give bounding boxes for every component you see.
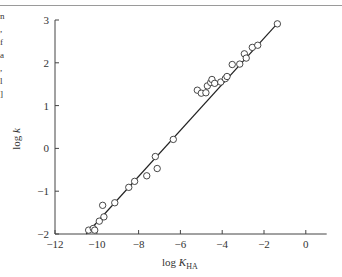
- data-point: [237, 61, 243, 67]
- data-point: [154, 165, 160, 171]
- y-tick-label: 2: [44, 57, 50, 69]
- y-axis-title: log k: [10, 127, 22, 150]
- axes: 3210−1−2−12−10−8−6−4−20: [37, 14, 326, 250]
- data-point: [224, 73, 230, 79]
- data-point: [211, 80, 217, 86]
- x-tick-label: −4: [216, 238, 228, 250]
- x-tick-label: −6: [175, 238, 187, 250]
- data-point: [274, 21, 280, 27]
- data-point: [92, 227, 98, 233]
- x-tick-label: −10: [88, 238, 106, 250]
- y-tick-label: −1: [37, 185, 49, 197]
- data-point: [99, 202, 105, 208]
- data-point: [203, 90, 209, 96]
- data-point: [144, 173, 150, 179]
- y-tick-label: 1: [44, 100, 50, 112]
- data-point: [131, 178, 137, 184]
- data-point: [255, 42, 261, 48]
- data-point: [170, 136, 176, 142]
- x-tick-label: −2: [258, 238, 270, 250]
- data-point: [126, 184, 132, 190]
- x-tick-label: −8: [133, 238, 145, 250]
- y-tick-label: 3: [44, 14, 50, 26]
- x-tick-label: 0: [303, 238, 309, 250]
- data-point: [229, 61, 235, 67]
- data-point: [152, 153, 158, 159]
- x-tick-label: −12: [46, 238, 63, 250]
- data-point: [243, 55, 249, 61]
- scatter-chart: 3210−1−2−12−10−8−6−4−20 log k log KHA: [0, 0, 342, 277]
- data-point: [101, 214, 107, 220]
- y-tick-label: 0: [44, 142, 50, 154]
- x-axis-title: log KHA: [162, 256, 198, 271]
- data-point: [112, 200, 118, 206]
